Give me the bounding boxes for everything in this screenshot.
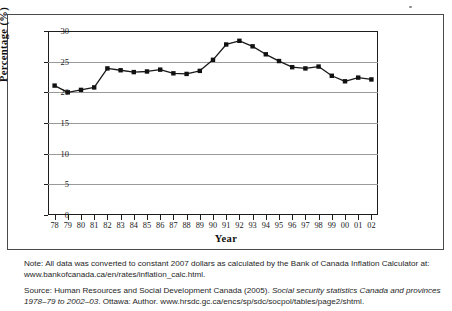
- x-tick-mark-89: [200, 215, 201, 220]
- y-tick-label-20: 20: [47, 87, 69, 97]
- line-chart-series: [48, 31, 378, 215]
- y-tick-mark-10: [44, 154, 48, 155]
- x-tick-mark-85: [147, 215, 148, 220]
- data-point-86: [158, 67, 162, 71]
- y-axis-title: Percentage (%): [0, 7, 9, 82]
- x-tick-mark-94: [266, 215, 267, 220]
- scan-artifact-mark: [409, 6, 412, 8]
- x-tick-mark-97: [305, 215, 306, 220]
- data-point-95: [277, 59, 281, 63]
- x-tick-mark-01: [358, 215, 359, 220]
- data-point-97: [303, 66, 307, 70]
- y-tick-label-25: 25: [47, 57, 69, 67]
- data-point-88: [184, 72, 188, 76]
- y-tick-mark-15: [44, 123, 48, 124]
- data-point-89: [198, 69, 202, 73]
- x-tick-mark-88: [187, 215, 188, 220]
- data-point-02: [369, 77, 373, 81]
- x-tick-mark-93: [253, 215, 254, 220]
- data-point-93: [250, 44, 254, 48]
- figure-root: Percentage (%) 051015202530 787980818283…: [0, 0, 452, 311]
- data-point-00: [343, 79, 347, 83]
- plot-area: [48, 31, 378, 215]
- y-tick-label-0: 0: [47, 210, 69, 220]
- data-point-80: [79, 88, 83, 92]
- x-tick-mark-02: [371, 215, 372, 220]
- series-line: [55, 41, 372, 93]
- x-tick-mark-96: [292, 215, 293, 220]
- source-text: Source: Human Resources and Social Devel…: [24, 285, 444, 307]
- data-point-01: [356, 75, 360, 79]
- data-point-91: [224, 42, 228, 46]
- source-prefix: Source: Human Resources and Social Devel…: [24, 286, 272, 295]
- x-tick-mark-78: [55, 215, 56, 220]
- data-point-90: [211, 58, 215, 62]
- x-tick-mark-91: [226, 215, 227, 220]
- x-tick-mark-95: [279, 215, 280, 220]
- x-tick-mark-98: [319, 215, 320, 220]
- x-tick-mark-00: [345, 215, 346, 220]
- data-point-98: [316, 64, 320, 68]
- x-tick-mark-84: [134, 215, 135, 220]
- y-tick-label-30: 30: [47, 26, 69, 36]
- y-tick-label-5: 5: [47, 179, 69, 189]
- data-point-82: [105, 66, 109, 70]
- data-point-96: [290, 65, 294, 69]
- x-tick-mark-82: [107, 215, 108, 220]
- data-point-99: [330, 74, 334, 78]
- data-point-83: [118, 68, 122, 72]
- y-tick-mark-25: [44, 62, 48, 63]
- x-tick-mark-83: [121, 215, 122, 220]
- y-tick-label-15: 15: [47, 118, 69, 128]
- data-point-85: [145, 69, 149, 73]
- x-tick-mark-92: [239, 215, 240, 220]
- data-point-92: [237, 39, 241, 43]
- x-tick-label-02: 02: [362, 221, 380, 230]
- y-tick-mark-0: [44, 215, 48, 216]
- data-point-94: [264, 52, 268, 56]
- y-tick-label-10: 10: [47, 149, 69, 159]
- source-title-part1: Social security statistics Canada and: [272, 286, 404, 295]
- y-tick-mark-5: [44, 184, 48, 185]
- x-tick-mark-81: [94, 215, 95, 220]
- data-point-84: [132, 70, 136, 74]
- x-tick-mark-79: [68, 215, 69, 220]
- source-suffix: . Ottawa: Author. www.hrsdc.gc.ca/encs/s…: [98, 297, 364, 306]
- y-tick-mark-20: [44, 92, 48, 93]
- note-line-1: Note: All data was converted to constant…: [24, 259, 418, 268]
- x-tick-mark-90: [213, 215, 214, 220]
- y-tick-mark-30: [44, 31, 48, 32]
- x-tick-mark-87: [173, 215, 174, 220]
- x-tick-mark-86: [160, 215, 161, 220]
- x-tick-mark-99: [332, 215, 333, 220]
- note-text: Note: All data was converted to constant…: [24, 258, 440, 280]
- data-point-87: [171, 71, 175, 75]
- x-tick-mark-80: [81, 215, 82, 220]
- x-axis-title: Year: [0, 233, 452, 244]
- data-point-81: [92, 85, 96, 89]
